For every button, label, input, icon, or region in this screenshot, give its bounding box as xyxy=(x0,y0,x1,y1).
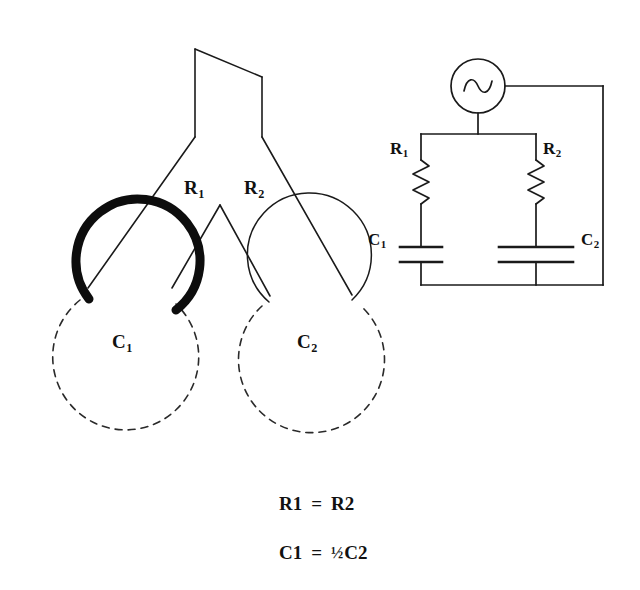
eq2-operator: = xyxy=(302,542,331,563)
eq2-coefficient: ½ xyxy=(331,545,344,561)
ac-source-sine-icon xyxy=(464,80,492,92)
branch-label-c2: C2 xyxy=(297,332,317,351)
eq2-lhs-sub: 1 xyxy=(293,542,303,563)
branching-network-group xyxy=(53,49,385,433)
eq1-rhs: R xyxy=(331,493,345,514)
c2-lobe-thin-arc xyxy=(247,193,371,302)
c1-dashed-halo xyxy=(53,300,199,430)
eq1-rhs-sub: 2 xyxy=(345,493,355,514)
equation-resistance-equality: R1=R2 xyxy=(279,494,354,513)
eq2-rhs-sub: 2 xyxy=(358,542,368,563)
eq2-lhs: C xyxy=(279,542,293,563)
branch-label-r1: R1 xyxy=(184,178,204,197)
c2-dashed-halo xyxy=(239,306,385,433)
circuit-label-c1: C1 xyxy=(368,231,386,248)
eq1-operator: = xyxy=(302,493,331,514)
equation-capacitance-relation: C1=½C2 xyxy=(279,543,368,562)
circuit-label-c2: C2 xyxy=(581,231,599,248)
eq1-lhs: R xyxy=(279,493,293,514)
r1-resistor-zigzag xyxy=(413,160,429,204)
outer-right-leg xyxy=(262,137,352,295)
c1-lobe-thick-arc xyxy=(76,199,200,310)
trunk-top-edge xyxy=(195,49,262,77)
circuit-group xyxy=(400,59,603,285)
branch-label-c1: C1 xyxy=(112,332,132,351)
branch-label-r2: R2 xyxy=(244,178,264,197)
eq1-lhs-sub: 1 xyxy=(293,493,303,514)
r2-resistor-zigzag xyxy=(528,160,544,204)
circuit-label-r1: R1 xyxy=(390,140,408,157)
figure-root: R1 R2 C1 C2 R1 R2 C1 C2 R1=R2 C1=½C2 xyxy=(0,0,640,590)
inner-v-right-edge xyxy=(220,205,270,296)
eq2-rhs: C xyxy=(344,542,358,563)
circuit-label-r2: R2 xyxy=(543,140,561,157)
